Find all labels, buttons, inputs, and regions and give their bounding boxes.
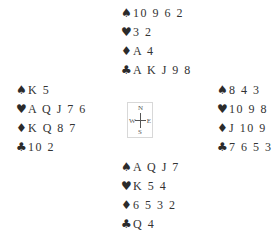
east-clubs: ♣7 6 5 3 — [217, 138, 273, 157]
spade-icon: ♠ — [121, 4, 133, 23]
compass-north-label: N — [138, 104, 143, 112]
west-diamonds: ♦K Q 8 7 — [16, 119, 87, 138]
diamond-icon: ♦ — [217, 119, 229, 138]
south-hand: ♠A Q J 7 ♥K 5 4 ♦6 5 3 2 ♣Q 4 — [121, 158, 180, 234]
diamond-icon: ♦ — [16, 119, 28, 138]
compass-west-label: W — [129, 117, 136, 125]
north-clubs: ♣A K J 9 8 — [121, 61, 192, 80]
north-diamonds: ♦A 4 — [121, 42, 192, 61]
south-diamonds: ♦6 5 3 2 — [121, 196, 180, 215]
club-icon: ♣ — [16, 138, 28, 157]
diamond-icon: ♦ — [121, 196, 133, 215]
diamond-icon: ♦ — [121, 42, 133, 61]
heart-icon: ♥ — [121, 23, 133, 42]
heart-icon: ♥ — [121, 177, 133, 196]
east-hearts: ♥10 9 8 — [217, 100, 273, 119]
compass-cross-horizontal — [135, 120, 146, 121]
heart-icon: ♥ — [217, 100, 229, 119]
west-spades: ♠K 5 — [16, 81, 87, 100]
club-icon: ♣ — [217, 138, 229, 157]
spade-icon: ♠ — [121, 158, 133, 177]
west-clubs: ♣10 2 — [16, 138, 87, 157]
east-hand: ♠8 4 3 ♥10 9 8 ♦J 10 9 ♣7 6 5 3 — [217, 81, 273, 157]
spade-icon: ♠ — [217, 81, 229, 100]
club-icon: ♣ — [121, 215, 133, 234]
west-hearts: ♥A Q J 7 6 — [16, 100, 87, 119]
east-diamonds: ♦J 10 9 — [217, 119, 273, 138]
west-hand: ♠K 5 ♥A Q J 7 6 ♦K Q 8 7 ♣10 2 — [16, 81, 87, 157]
compass-east-label: E — [147, 117, 151, 125]
heart-icon: ♥ — [16, 100, 28, 119]
compass-south-label: S — [138, 128, 142, 136]
north-spades: ♠10 9 6 2 — [121, 4, 192, 23]
south-clubs: ♣Q 4 — [121, 215, 180, 234]
compass-rose: N W E S — [127, 102, 153, 138]
south-hearts: ♥K 5 4 — [121, 177, 180, 196]
north-hand: ♠10 9 6 2 ♥3 2 ♦A 4 ♣A K J 9 8 — [121, 4, 192, 80]
south-spades: ♠A Q J 7 — [121, 158, 180, 177]
north-hearts: ♥3 2 — [121, 23, 192, 42]
east-spades: ♠8 4 3 — [217, 81, 273, 100]
club-icon: ♣ — [121, 61, 133, 80]
spade-icon: ♠ — [16, 81, 28, 100]
